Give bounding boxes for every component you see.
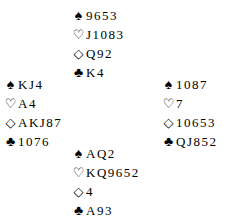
diamond-icon: ◇ (162, 113, 175, 132)
club-icon: ♣ (4, 132, 17, 151)
west-spades: ♠ KJ4 (4, 75, 62, 94)
west-hearts: ♡ A4 (4, 94, 62, 113)
north-diamonds: ◇ Q92 (72, 44, 125, 63)
south-diamonds-cards: 4 (86, 182, 94, 201)
north-clubs-cards: K4 (86, 63, 105, 82)
east-clubs-cards: QJ852 (176, 132, 217, 151)
south-hearts-cards: KQ9652 (86, 163, 140, 182)
west-diamonds: ◇ AKJ87 (4, 113, 62, 132)
west-clubs: ♣ 1076 (4, 132, 62, 151)
north-hearts: ♡ J1083 (72, 25, 125, 44)
north-hearts-cards: J1083 (86, 25, 125, 44)
west-clubs-cards: 1076 (18, 132, 50, 151)
west-spades-cards: KJ4 (18, 75, 43, 94)
diamond-icon: ◇ (72, 182, 85, 201)
east-spades-cards: 1087 (176, 75, 208, 94)
west-hearts-cards: A4 (18, 94, 37, 113)
north-hand: ♠ 9653 ♡ J1083 ◇ Q92 ♣ K4 (72, 6, 125, 82)
east-diamonds: ◇ 10653 (162, 113, 217, 132)
heart-icon: ♡ (162, 94, 175, 113)
south-spades: ♠ AQ2 (72, 144, 140, 163)
west-diamonds-cards: AKJ87 (18, 113, 62, 132)
heart-icon: ♡ (72, 25, 85, 44)
east-spades: ♠ 1087 (162, 75, 217, 94)
east-hand: ♠ 1087 ♡ 7 ◇ 10653 ♣ QJ852 (162, 75, 217, 151)
south-hand: ♠ AQ2 ♡ KQ9652 ◇ 4 ♣ A93 (72, 144, 140, 220)
south-hearts: ♡ KQ9652 (72, 163, 140, 182)
spade-icon: ♠ (162, 75, 175, 94)
south-diamonds: ◇ 4 (72, 182, 140, 201)
east-clubs: ♣ QJ852 (162, 132, 217, 151)
north-spades-cards: 9653 (86, 6, 118, 25)
club-icon: ♣ (162, 132, 175, 151)
east-hearts-cards: 7 (176, 94, 184, 113)
spade-icon: ♠ (72, 144, 85, 163)
diamond-icon: ◇ (4, 113, 17, 132)
east-diamonds-cards: 10653 (176, 113, 216, 132)
spade-icon: ♠ (4, 75, 17, 94)
spade-icon: ♠ (72, 6, 85, 25)
club-icon: ♣ (72, 63, 85, 82)
north-clubs: ♣ K4 (72, 63, 125, 82)
heart-icon: ♡ (4, 94, 17, 113)
west-hand: ♠ KJ4 ♡ A4 ◇ AKJ87 ♣ 1076 (4, 75, 62, 151)
south-spades-cards: AQ2 (86, 144, 116, 163)
south-clubs: ♣ A93 (72, 201, 140, 220)
north-diamonds-cards: Q92 (86, 44, 113, 63)
diamond-icon: ◇ (72, 44, 85, 63)
south-clubs-cards: A93 (86, 201, 113, 220)
heart-icon: ♡ (72, 163, 85, 182)
north-spades: ♠ 9653 (72, 6, 125, 25)
east-hearts: ♡ 7 (162, 94, 217, 113)
club-icon: ♣ (72, 201, 85, 220)
